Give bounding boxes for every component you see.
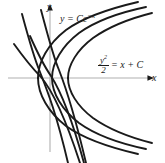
- parabola-numerator-exponent: 2: [104, 54, 107, 60]
- parabola-equation-label: y2 2 = x + C: [98, 54, 143, 75]
- parabola-denominator: 2: [99, 66, 108, 75]
- parabola-numerator: y2: [98, 54, 109, 65]
- parabola-fraction: y2 2: [98, 54, 109, 75]
- exponential-equation-label: y = Ce−x: [60, 13, 95, 24]
- exponential-curve-1: [22, 14, 68, 163]
- figure-canvas: [0, 0, 165, 163]
- parabola-lower-3: [68, 78, 152, 143]
- parabola-right-hand-side: = x + C: [111, 60, 143, 70]
- x-axis-label: x: [152, 73, 156, 83]
- y-axis-label: y: [47, 2, 51, 12]
- orthogonal-trajectories-figure: y x y = Ce−x y2 2 = x + C: [0, 0, 165, 163]
- exponential-equation-base: y = Ce: [60, 13, 87, 24]
- exponential-equation-exponent: −x: [87, 12, 95, 20]
